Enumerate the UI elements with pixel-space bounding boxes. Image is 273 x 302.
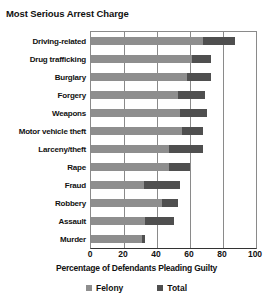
category-label: Rape	[0, 163, 86, 172]
x-tick-label: 0	[88, 249, 93, 259]
category-label: Robbery	[0, 199, 86, 208]
x-tick-label: 80	[217, 249, 226, 259]
bar-group	[91, 37, 256, 45]
legend-label: Felony	[96, 283, 123, 293]
bar-row	[91, 68, 256, 86]
bar-group	[91, 235, 256, 243]
legend-swatch-icon	[86, 285, 92, 291]
bar-segment-felony	[91, 163, 169, 171]
bar-row	[91, 32, 256, 50]
bar-segment-felony	[91, 73, 187, 81]
legend-entry: Felony	[86, 283, 123, 293]
bar-segment-felony	[91, 37, 203, 45]
bar-row	[91, 176, 256, 194]
bar-group	[91, 163, 256, 171]
bar-group	[91, 181, 256, 189]
bar-group	[91, 109, 256, 117]
bar-row	[91, 122, 256, 140]
bar-segment-felony	[91, 55, 192, 63]
bar-group	[91, 73, 256, 81]
bar-group	[91, 199, 256, 207]
bar-row	[91, 140, 256, 158]
bar-segment-felony	[91, 181, 144, 189]
legend-label: Total	[167, 283, 187, 293]
x-tick-label: 40	[151, 249, 160, 259]
category-axis-labels: Driving-relatedDrug traffickingBurglaryF…	[0, 32, 86, 248]
bar-group	[91, 55, 256, 63]
bar-group	[91, 217, 256, 225]
chart-title: Most Serious Arrest Charge	[6, 8, 129, 19]
x-axis-ticks: 020406080100	[90, 249, 255, 261]
bar-segment-felony	[91, 91, 178, 99]
category-label: Assault	[0, 217, 86, 226]
x-axis-title: Percentage of Defendants Pleading Guilty	[0, 263, 273, 273]
category-label: Motor vehicle theft	[0, 127, 86, 136]
category-label: Drug trafficking	[0, 55, 86, 64]
legend-entry: Total	[157, 283, 187, 293]
bar-group	[91, 145, 256, 153]
bar-segment-felony	[91, 145, 169, 153]
bar-row	[91, 230, 256, 248]
bar-group	[91, 91, 256, 99]
bar-rows	[91, 32, 256, 248]
bar-row	[91, 104, 256, 122]
bar-row	[91, 158, 256, 176]
bar-segment-felony	[91, 109, 180, 117]
category-label: Forgery	[0, 91, 86, 100]
bar-row	[91, 86, 256, 104]
bar-segment-felony	[91, 127, 182, 135]
x-tick-label: 20	[118, 249, 127, 259]
bar-row	[91, 212, 256, 230]
bar-segment-felony	[91, 217, 145, 225]
category-label: Driving-related	[0, 37, 86, 46]
category-label: Murder	[0, 235, 86, 244]
bar-segment-felony	[91, 235, 142, 243]
legend-swatch-icon	[157, 285, 163, 291]
x-tick-label: 60	[184, 249, 193, 259]
chart-figure: Most Serious Arrest Charge Driving-relat…	[0, 0, 273, 302]
bar-group	[91, 127, 256, 135]
category-label: Burglary	[0, 73, 86, 82]
bar-row	[91, 194, 256, 212]
category-label: Weapons	[0, 109, 86, 118]
category-label: Fraud	[0, 181, 86, 190]
x-tick-label: 100	[248, 249, 262, 259]
plot-area	[90, 31, 257, 249]
gridline	[256, 32, 257, 248]
category-label: Larceny/theft	[0, 145, 86, 154]
bar-row	[91, 50, 256, 68]
bar-segment-felony	[91, 199, 162, 207]
chart-legend: FelonyTotal	[0, 283, 273, 293]
